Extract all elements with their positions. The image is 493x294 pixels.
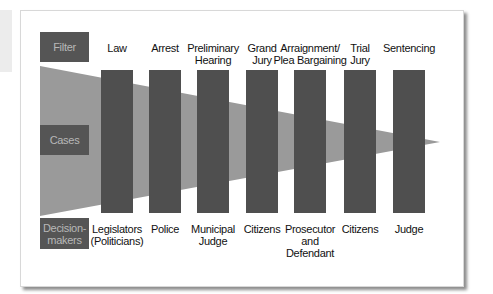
- filter-bar-6: [344, 70, 376, 213]
- filter-bar-7: [393, 70, 425, 213]
- filter-bar-2: [149, 70, 181, 213]
- filter-bar-4: [246, 70, 278, 213]
- filter-bar-3: [197, 70, 229, 213]
- row-header-cases-label: Cases: [50, 134, 80, 146]
- stage-filter-label: Sentencing: [359, 42, 459, 54]
- stage-decision-maker-label: Judge: [359, 223, 459, 235]
- filter-bar-5: [294, 70, 326, 213]
- row-header-cases: Cases: [40, 125, 89, 155]
- filter-bar-1: [101, 70, 133, 213]
- cases-funnel-band: [40, 66, 440, 216]
